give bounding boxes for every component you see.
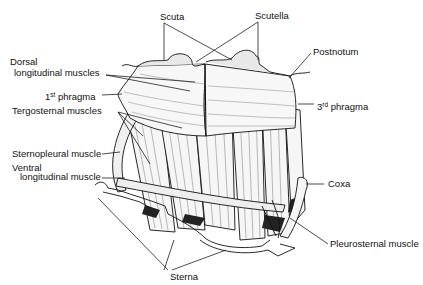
label-scutella: Scutella bbox=[255, 11, 289, 21]
label-scuta: Scuta bbox=[160, 12, 184, 22]
thorax-muscle-diagram: Scuta Scutella Postnotum Dorsal longitud… bbox=[0, 0, 423, 285]
label-3rd-phragma: 3rd phragma bbox=[317, 100, 368, 112]
label-pleurosternal: Pleurosternal muscle bbox=[330, 239, 419, 249]
label-dorsal-line2: longitudinal muscles bbox=[14, 68, 100, 78]
label-1st-phragma: 1st phragma bbox=[45, 90, 96, 102]
label-coxa: Coxa bbox=[328, 179, 350, 189]
label-dorsal-line1: Dorsal bbox=[10, 57, 37, 67]
label-sterna: Sterna bbox=[170, 272, 198, 282]
label-ventral-line2: longitudinal muscle bbox=[20, 172, 101, 182]
label-tergosternal: Tergosternal muscles bbox=[12, 106, 102, 116]
label-postnotum: Postnotum bbox=[313, 47, 358, 57]
label-sternopleural: Sternopleural muscle bbox=[12, 149, 101, 159]
